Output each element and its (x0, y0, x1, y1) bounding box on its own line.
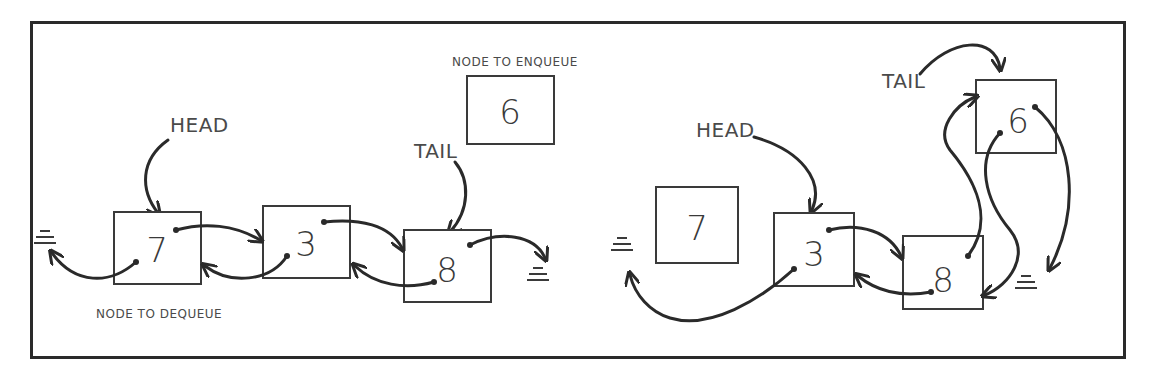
null-terminator-icon (1015, 276, 1037, 288)
node-value: 6 (1007, 101, 1029, 141)
head-label: HEAD (170, 113, 229, 137)
null-terminator-icon (527, 268, 549, 280)
prev-pointer-arrow (630, 269, 794, 321)
node-to-dequeue-label: NODE TO DEQUEUE (96, 307, 222, 321)
node-value: 7 (146, 230, 168, 270)
queue-diagram: NODE TO ENQUEUE 6 HEAD TAIL 7 3 (0, 0, 1153, 380)
node-value: 8 (436, 250, 458, 290)
left-panel: NODE TO ENQUEUE 6 HEAD TAIL 7 3 (34, 55, 578, 321)
null-terminator-icon (34, 231, 56, 243)
right-panel: TAIL HEAD 7 3 8 6 (611, 45, 1069, 321)
pending-node-6: 6 (467, 76, 554, 144)
node-8: 8 (903, 236, 983, 309)
dequeued-node-7: 7 (656, 187, 738, 263)
tail-label: TAIL (881, 69, 926, 93)
tail-pointer-arrow (920, 45, 1000, 74)
node-value: 3 (295, 224, 317, 264)
prev-pointer-arrow (985, 133, 1018, 295)
tail-label: TAIL (413, 139, 458, 163)
node-7: 7 (114, 212, 201, 284)
node-value: 7 (686, 208, 708, 248)
tail-pointer-arrow (450, 162, 466, 232)
null-terminator-icon (611, 238, 633, 250)
node-value: 6 (499, 92, 521, 132)
node-value: 8 (932, 260, 954, 300)
head-pointer-arrow (146, 140, 168, 213)
node-value: 3 (803, 234, 825, 274)
head-label: HEAD (696, 118, 755, 142)
node-to-enqueue-label: NODE TO ENQUEUE (452, 55, 578, 69)
head-pointer-arrow (754, 137, 815, 210)
